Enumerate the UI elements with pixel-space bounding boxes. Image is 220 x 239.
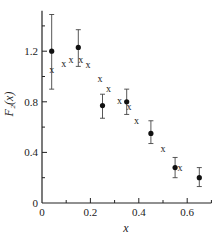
data-points bbox=[49, 45, 202, 180]
model-marker: x bbox=[49, 64, 54, 75]
model-marker: x bbox=[161, 143, 166, 154]
y-tick-label: 0 bbox=[33, 197, 39, 209]
data-point bbox=[49, 49, 54, 54]
model-marker: x bbox=[85, 59, 90, 70]
data-point bbox=[197, 175, 202, 180]
x-tick-label: 0.6 bbox=[180, 206, 194, 218]
model-marker: x bbox=[98, 73, 103, 84]
x-tick-label: 0 bbox=[39, 206, 45, 218]
model-markers: xxxxxxxxxxxx bbox=[49, 54, 182, 173]
data-point bbox=[76, 45, 81, 50]
model-marker: x bbox=[78, 54, 83, 65]
y-axis-label: F₂(x) bbox=[2, 92, 16, 118]
model-marker: x bbox=[134, 115, 139, 126]
model-marker: x bbox=[177, 162, 182, 173]
data-point bbox=[100, 103, 105, 108]
model-marker: x bbox=[106, 83, 111, 94]
model-marker: x bbox=[61, 58, 66, 69]
y-tick-label: 0.4 bbox=[24, 146, 38, 158]
x-axis-label: x bbox=[122, 221, 129, 235]
model-marker: x bbox=[127, 101, 132, 112]
y-tick-label: 0.8 bbox=[24, 96, 38, 108]
x-tick-label: 0.2 bbox=[84, 206, 98, 218]
x-tick-label: 0.4 bbox=[132, 206, 146, 218]
model-marker: x bbox=[69, 54, 74, 65]
chart: 00.20.40.600.40.81.2 xxxxxxxxxxxx x F₂(x… bbox=[0, 0, 220, 239]
data-point bbox=[148, 131, 153, 136]
y-tick-label: 1.2 bbox=[24, 45, 38, 57]
model-marker: x bbox=[117, 95, 122, 106]
